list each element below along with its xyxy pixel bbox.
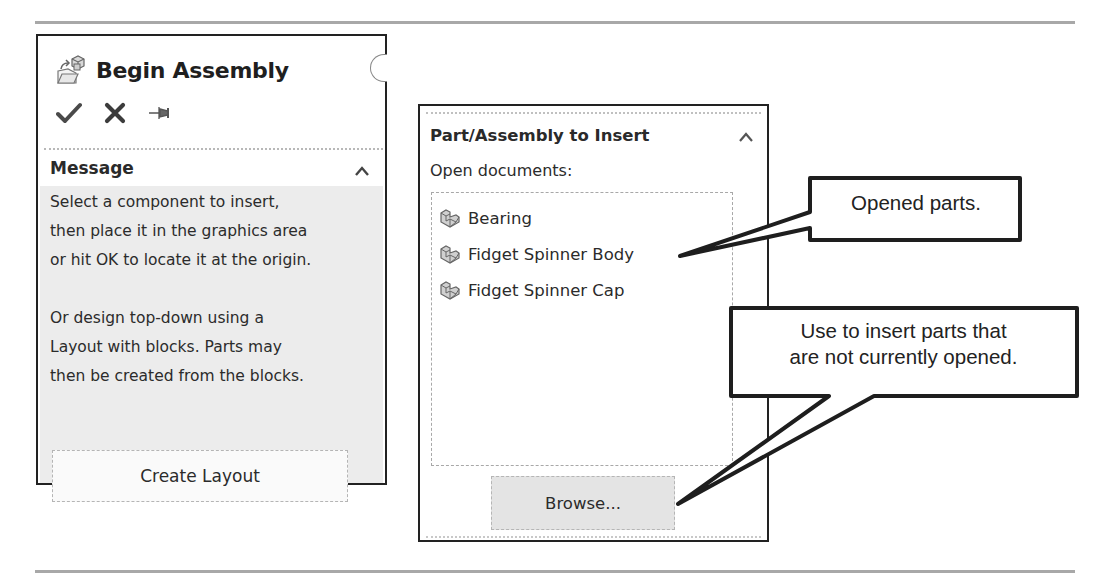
panel-action-bar — [56, 102, 172, 124]
begin-assembly-icon — [56, 55, 86, 85]
create-layout-button[interactable]: Create Layout — [52, 450, 348, 502]
panel-title-row: Begin Assembly — [56, 50, 289, 90]
list-item-fidget-spinner-cap[interactable]: Fidget Spinner Cap — [438, 277, 624, 303]
close-icon[interactable] — [104, 102, 126, 124]
browse-button[interactable]: Browse... — [491, 476, 675, 530]
part-icon — [438, 279, 460, 301]
message-section-header[interactable]: Message — [38, 152, 385, 186]
pushpin-icon[interactable] — [148, 104, 172, 122]
panel-title: Begin Assembly — [96, 58, 289, 83]
part-icon — [438, 243, 460, 265]
message-text: Select a component to insert, then place… — [50, 188, 380, 391]
section-title: Part/Assembly to Insert — [430, 126, 650, 145]
document-name: Bearing — [468, 209, 532, 228]
begin-assembly-panel: Begin Assembly Message Select a componen… — [36, 34, 387, 485]
panel-header: Begin Assembly — [38, 36, 385, 148]
section-top-separator — [426, 112, 761, 114]
document-name: Fidget Spinner Body — [468, 245, 634, 264]
chevron-up-icon[interactable] — [354, 162, 368, 176]
message-body: Select a component to insert, then place… — [40, 186, 383, 483]
open-documents-list[interactable]: Bearing Fidget Spinner Body Fidget Spinn… — [431, 192, 733, 466]
part-assembly-to-insert-panel: Part/Assembly to Insert Open documents: … — [418, 104, 769, 542]
list-item-bearing[interactable]: Bearing — [438, 205, 532, 231]
opened-parts-callout-text: Opened parts. — [812, 190, 1020, 216]
list-item-fidget-spinner-body[interactable]: Fidget Spinner Body — [438, 241, 634, 267]
message-section-title: Message — [50, 158, 134, 178]
browse-hint-callout-text: Use to insert parts that are not current… — [731, 318, 1076, 370]
top-divider-rule — [35, 21, 1075, 24]
help-circle-button[interactable] — [370, 54, 387, 82]
part-icon — [438, 207, 460, 229]
checkmark-icon[interactable] — [56, 102, 82, 124]
header-separator — [44, 148, 383, 150]
document-name: Fidget Spinner Cap — [468, 281, 624, 300]
bottom-divider-rule — [35, 570, 1075, 573]
chevron-up-icon[interactable] — [738, 128, 752, 142]
open-documents-label: Open documents: — [430, 161, 572, 180]
section-bottom-separator — [426, 536, 761, 538]
